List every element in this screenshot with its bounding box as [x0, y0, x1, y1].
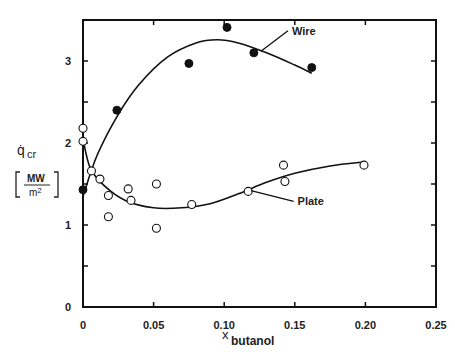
y-axis-ticks: 0123: [65, 55, 436, 313]
plate-data-point: [127, 196, 135, 204]
y-tick-label: 3: [65, 55, 71, 67]
plate-series-label: Plate: [298, 195, 324, 207]
plate-data-point: [281, 178, 289, 186]
wire-series-label: Wire: [292, 25, 316, 37]
wire-data-point: [308, 64, 316, 72]
plate-data-point: [188, 201, 196, 209]
wire-data-point: [223, 23, 231, 31]
y-unit-denominator: m2: [29, 186, 42, 198]
wire-data-point: [250, 49, 258, 57]
y-axis-label-main: q̇: [17, 142, 25, 158]
x-axis-ticks: 00.050.100.150.200.25: [80, 20, 447, 331]
wire-data-point: [185, 59, 193, 67]
x-tick-label: 0.15: [284, 319, 305, 331]
plate-data-point: [104, 191, 112, 199]
plate-data-point: [152, 180, 160, 188]
fit-curves: [83, 40, 365, 209]
x-axis-label-main: x: [222, 327, 229, 342]
plate-label-leader: [251, 191, 294, 202]
plate-data-point: [104, 213, 112, 221]
plate-data-point: [280, 161, 288, 169]
wire-data-point: [79, 186, 87, 194]
y-axis-label-sub: cr: [27, 148, 37, 160]
wire-label-leader: [261, 31, 288, 51]
unit-bracket-right: [54, 172, 58, 197]
wire-fit-curve: [83, 40, 312, 197]
data-points: [79, 23, 368, 232]
plate-data-point: [96, 175, 104, 183]
x-tick-label: 0: [80, 319, 86, 331]
wire-data-point: [113, 106, 121, 114]
plate-data-point: [79, 124, 87, 132]
plate-data-point: [87, 167, 95, 175]
y-axis-label: q̇ cr MW m2: [16, 142, 58, 198]
plate-data-point: [79, 137, 87, 145]
plate-data-point: [152, 224, 160, 232]
plate-data-point: [360, 161, 368, 169]
x-tick-label: 0.20: [355, 319, 376, 331]
y-tick-label: 2: [65, 137, 71, 149]
plot-frame: [83, 20, 436, 307]
x-tick-label: 0.05: [143, 319, 164, 331]
y-tick-label: 1: [65, 219, 71, 231]
y-unit-numerator: MW: [27, 173, 45, 184]
x-tick-label: 0.25: [425, 319, 446, 331]
x-axis-label-sub: butanol: [231, 334, 274, 348]
y-tick-label: 0: [65, 301, 71, 313]
plate-data-point: [244, 187, 252, 195]
chart: 00.050.100.150.200.25 0123 WirePlate x b…: [0, 0, 455, 357]
plate-data-point: [124, 185, 132, 193]
unit-bracket-left: [16, 172, 20, 197]
